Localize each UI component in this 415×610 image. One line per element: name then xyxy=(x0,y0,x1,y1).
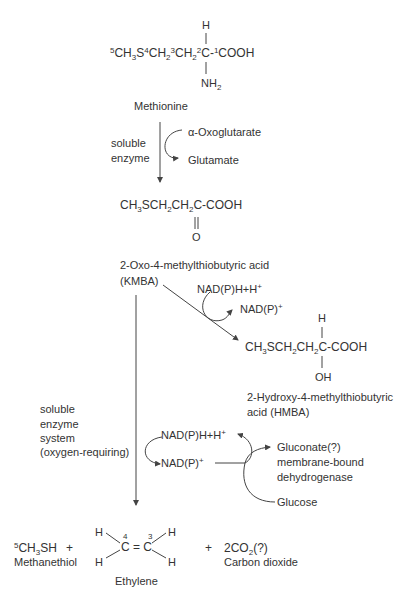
hmba-abbrev: acid (HMBA) xyxy=(247,406,309,419)
cofactor-text: NAD(P)H+H xyxy=(197,283,257,295)
ethylene-double-bond: C = C xyxy=(121,541,152,554)
kmba-abbrev: (KMBA) xyxy=(120,275,159,288)
gluconate-label: Gluconate(?) xyxy=(277,441,341,454)
ethylene-h-bottom-left: H xyxy=(95,556,103,569)
formula-part: CH xyxy=(175,46,192,60)
cofactor-text: NAD(P) xyxy=(161,457,199,469)
hmba-h-atom: H xyxy=(318,312,326,325)
methionine-h-atom: H xyxy=(202,19,210,32)
co2-formula: 2CO2(?) xyxy=(224,542,268,555)
formula-part: CH xyxy=(114,46,131,60)
carbon-dioxide-label: Carbon dioxide xyxy=(224,556,298,569)
glucose-label: Glucose xyxy=(277,496,317,509)
methanethiol-label: Methanethiol xyxy=(14,556,77,569)
subscript: 2 xyxy=(217,83,221,92)
alpha-oxoglutarate-label: α-Oxoglutarate xyxy=(188,126,261,139)
formula-part: CH xyxy=(245,340,262,354)
superscript: + xyxy=(221,428,226,437)
superscript: + xyxy=(278,302,283,311)
methionine-label: Methionine xyxy=(134,100,188,113)
formula-part: CH xyxy=(297,340,314,354)
hmba-formula: CH3SCH2CH2C-COOH xyxy=(245,341,367,354)
hmba-name: 2-Hydroxy-4-methylthiobutyric xyxy=(247,391,393,404)
formula-part: SCH xyxy=(267,340,292,354)
step3-enzyme-line2: enzyme xyxy=(40,418,79,431)
kmba-formula: CH3SCH2CH2C-COOH xyxy=(120,199,242,212)
dehydrogenase-line2: dehydrogenase xyxy=(277,471,353,484)
step3-enzyme-line3: system xyxy=(40,432,75,445)
formula-part: C- xyxy=(201,46,214,60)
step3-enzyme-line4: (oxygen-requiring) xyxy=(40,446,129,459)
glutamate-label: Glutamate xyxy=(188,154,239,167)
ethylene-h-top-right: H xyxy=(168,526,176,539)
formula-part: C-COOH xyxy=(318,340,367,354)
step2-cofactor-reduced: NAD(P)H+H+ xyxy=(197,283,262,296)
kmba-oxo-atom: O xyxy=(192,231,201,244)
methanethiol-formula: 5CH3SH xyxy=(14,542,57,555)
formula-part: SH xyxy=(40,541,57,555)
formula-part: SCH xyxy=(142,198,167,212)
ethylene-h-top-left: H xyxy=(95,526,103,539)
formula-part: (?) xyxy=(253,541,268,555)
step3-cofactor-oxidized: NAD(P)+ xyxy=(161,457,204,470)
kmba-name: 2-Oxo-4-methylthiobutyric acid xyxy=(120,259,269,272)
superscript: + xyxy=(199,456,204,465)
dehydrogenase-line1: membrane-bound xyxy=(277,456,364,469)
ethylene-label: Ethylene xyxy=(115,575,158,588)
plus-sign-2: + xyxy=(205,542,212,555)
step3-enzyme-line1: soluble xyxy=(40,403,75,416)
methionine-formula: 5CH3S4CH23CH22C-1COOH xyxy=(110,47,254,60)
formula-part: C-COOH xyxy=(193,198,242,212)
methionine-amino-group: NH2 xyxy=(201,77,221,90)
formula-part: NH xyxy=(201,77,217,89)
step2-cofactor-oxidized: NAD(P)+ xyxy=(240,303,283,316)
ethylene-h-bottom-right: H xyxy=(168,556,176,569)
hmba-hydroxyl: OH xyxy=(315,371,332,384)
formula-part: 2CO xyxy=(224,541,249,555)
formula-part: CH xyxy=(18,541,35,555)
step3-cofactor-reduced: NAD(P)H+H+ xyxy=(161,429,226,442)
formula-part: CH xyxy=(149,46,166,60)
cofactor-text: NAD(P)H+H xyxy=(161,429,221,441)
formula-part: COOH xyxy=(218,46,254,60)
plus-sign-1: + xyxy=(66,542,73,555)
pathway-arrows xyxy=(0,0,415,610)
cofactor-text: NAD(P) xyxy=(240,303,278,315)
step1-enzyme-line2: enzyme xyxy=(111,152,150,165)
formula-part: CH xyxy=(172,198,189,212)
superscript: + xyxy=(257,282,262,291)
formula-part: CH xyxy=(120,198,137,212)
step1-enzyme-line1: soluble xyxy=(111,137,146,150)
